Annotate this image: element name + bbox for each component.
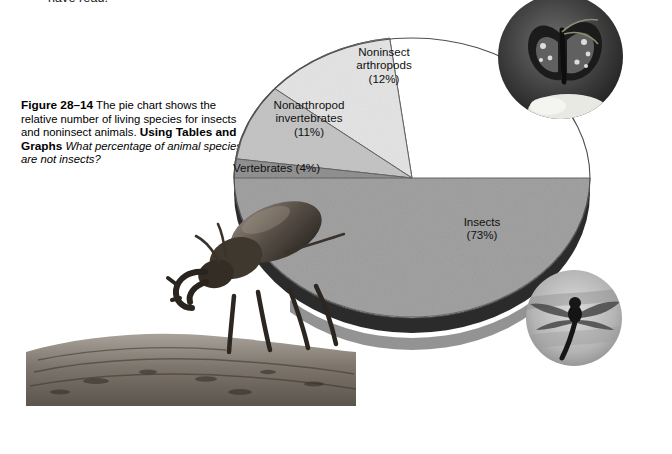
pie-label-noninsect-arthropods-line1: Noninsect [336, 45, 432, 58]
figure-page: have read. Figure 28–14 The pie chart sh… [0, 0, 672, 454]
pie-label-noninsect-arthropods: Noninsect arthropods (12%) [336, 45, 432, 85]
pie-label-nonarthropod-invertebrates: Nonarthropod invertebrates (11%) [254, 98, 364, 138]
pie-label-insects: Insects (73%) [440, 215, 524, 242]
pie-label-nonarthropod-invertebrates-line1: Nonarthropod [254, 98, 364, 111]
photo-butterfly [498, 0, 623, 126]
pie-label-vertebrates: Vertebrates (4%) [233, 161, 337, 174]
pie-label-nonarthropod-invertebrates-pct: (11%) [254, 125, 364, 138]
photo-dragonfly [526, 270, 622, 366]
pie-label-noninsect-arthropods-line2: arthropods [336, 58, 432, 71]
pie-label-insects-pct: (73%) [440, 228, 524, 241]
pie-chart: Noninsect arthropods (12%) Nonarthropod … [0, 0, 672, 454]
pie-label-insects-line1: Insects [440, 215, 524, 228]
pie-label-noninsect-arthropods-pct: (12%) [336, 72, 432, 85]
pie-label-nonarthropod-invertebrates-line2: invertebrates [254, 111, 364, 124]
